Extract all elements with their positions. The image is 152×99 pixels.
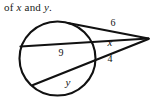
caption-suffix: . bbox=[49, 1, 52, 13]
geometry-figure: 6 x 4 9 y bbox=[0, 13, 152, 99]
upper-secant-line bbox=[21, 39, 149, 47]
caption-conjunction: and bbox=[22, 1, 44, 13]
circle-shape bbox=[20, 22, 96, 96]
label-chord-lower: y bbox=[65, 76, 71, 88]
label-inner-upper-segment: x bbox=[107, 36, 113, 48]
label-chord-upper: 9 bbox=[59, 47, 64, 58]
label-outer-upper-segment: 6 bbox=[111, 17, 116, 28]
caption-text: of x and y. bbox=[4, 0, 52, 14]
label-outer-lower-segment: 4 bbox=[108, 53, 113, 64]
caption-prefix: of bbox=[4, 1, 17, 13]
figure-page: of x and y. 6 x 4 9 y bbox=[0, 0, 152, 99]
